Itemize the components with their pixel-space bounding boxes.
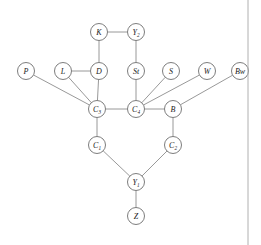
node-Y2[interactable]: Y2: [128, 24, 145, 41]
node-circle-W: [199, 63, 216, 80]
node-B[interactable]: B: [165, 101, 182, 118]
graph-canvas: KY2PLDStSWBwC3C4BC1C2Y1Z: [0, 0, 261, 245]
node-circle-Bw: [232, 63, 249, 80]
graph-diagram: KY2PLDStSWBwC3C4BC1C2Y1Z: [0, 0, 261, 245]
node-circle-C2: [165, 137, 182, 154]
node-K[interactable]: K: [91, 24, 108, 41]
node-circle-Z: [128, 208, 145, 225]
node-circle-B: [165, 101, 182, 118]
edge-D-C3: [97, 79, 98, 100]
node-circle-L: [55, 63, 72, 80]
edge-S-C4: [142, 77, 165, 103]
node-C3[interactable]: C3: [89, 101, 106, 118]
node-W[interactable]: W: [199, 63, 216, 80]
node-Y1[interactable]: Y1: [128, 174, 145, 191]
node-St[interactable]: St: [128, 63, 145, 80]
node-circle-Y1: [128, 174, 145, 191]
node-circle-St: [128, 63, 145, 80]
node-P[interactable]: P: [18, 63, 35, 80]
node-C2[interactable]: C2: [165, 137, 182, 154]
node-circle-K: [91, 24, 108, 41]
node-circle-D: [91, 63, 108, 80]
node-circle-C4: [128, 101, 145, 118]
node-D[interactable]: D: [91, 63, 108, 80]
edge-C2-Y1: [142, 151, 167, 176]
node-C1[interactable]: C1: [89, 137, 106, 154]
node-Z[interactable]: Z: [128, 208, 145, 225]
node-circle-P: [18, 63, 35, 80]
edge-C1-Y1: [103, 151, 130, 176]
node-S[interactable]: S: [163, 63, 180, 80]
nodes-layer: KY2PLDStSWBwC3C4BC1C2Y1Z: [18, 24, 249, 225]
node-Bw[interactable]: Bw: [232, 63, 249, 80]
node-L[interactable]: L: [55, 63, 72, 80]
node-circle-C3: [89, 101, 106, 118]
node-circle-C1: [89, 137, 106, 154]
node-circle-Y2: [128, 24, 145, 41]
node-circle-S: [163, 63, 180, 80]
edge-L-C3: [69, 77, 92, 102]
node-C4[interactable]: C4: [128, 101, 145, 118]
